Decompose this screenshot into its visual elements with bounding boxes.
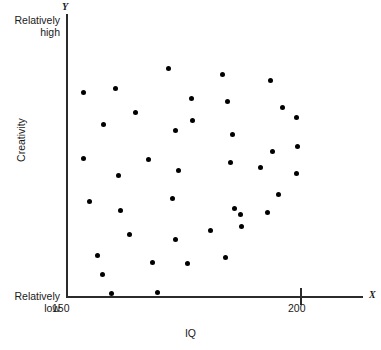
y-axis-line	[66, 14, 68, 298]
x-axis-letter: X	[369, 289, 376, 300]
data-point	[190, 118, 195, 123]
data-point	[238, 212, 243, 217]
data-point	[173, 237, 178, 242]
data-point	[87, 199, 92, 204]
data-point	[81, 90, 86, 95]
data-point	[185, 261, 190, 266]
x-axis-title: IQ	[0, 327, 381, 339]
y-axis-anchor-high: Relatively high	[0, 14, 60, 38]
data-point	[265, 210, 270, 215]
data-point	[294, 115, 299, 120]
data-point	[280, 105, 285, 110]
data-point	[208, 228, 213, 233]
data-point	[258, 165, 263, 170]
data-point	[133, 110, 138, 115]
y-axis-anchor-low-line1: Relatively	[0, 290, 60, 302]
data-point	[230, 132, 235, 137]
data-point	[294, 171, 299, 176]
data-point	[127, 232, 132, 237]
data-point	[113, 86, 118, 91]
data-point	[239, 224, 244, 229]
data-point	[100, 272, 105, 277]
data-point	[228, 160, 233, 165]
data-point	[189, 96, 194, 101]
x-tick-label-200: 200	[288, 302, 306, 314]
data-point	[173, 128, 178, 133]
y-axis-anchor-low: Relatively low	[0, 290, 60, 314]
scatterplot-figure: Y X 150 200 Relatively high Relatively l…	[0, 0, 381, 350]
data-point	[232, 206, 237, 211]
y-axis-anchor-high-line1: Relatively	[0, 14, 60, 26]
data-point	[295, 144, 300, 149]
data-point	[276, 192, 281, 197]
data-point	[166, 66, 171, 71]
data-point	[155, 290, 160, 295]
data-point	[118, 208, 123, 213]
y-axis-letter: Y	[62, 1, 68, 12]
y-axis-title: Creativity	[15, 95, 27, 185]
data-point	[170, 196, 175, 201]
data-point	[116, 173, 121, 178]
data-point	[150, 260, 155, 265]
data-point	[81, 156, 86, 161]
data-point	[101, 122, 106, 127]
data-point	[146, 157, 151, 162]
data-point	[270, 149, 275, 154]
data-point	[95, 253, 100, 258]
data-point	[176, 168, 181, 173]
x-axis-line	[66, 296, 363, 298]
data-point	[268, 78, 273, 83]
data-point	[225, 99, 230, 104]
y-axis-anchor-low-line2: low	[0, 302, 60, 314]
data-point	[109, 291, 114, 296]
data-point	[223, 255, 228, 260]
y-axis-anchor-high-line2: high	[0, 26, 60, 38]
data-point	[220, 72, 225, 77]
